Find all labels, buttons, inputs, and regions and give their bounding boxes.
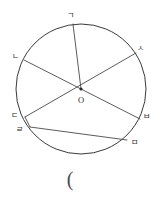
vertex-label-siot: ㅅ <box>137 44 144 53</box>
figure-canvas: O ㄱ ㄴ ㅅ ㄷ ㄹ ㅂ ㅁ ( <box>0 0 159 202</box>
caption-parenthesis: ( <box>67 168 74 191</box>
vertex-label-digeut: ㄷ <box>11 111 18 120</box>
center-point-dot <box>79 87 82 90</box>
vertex-label-bieup: ㅂ <box>143 112 150 121</box>
radius-O-giyeok <box>73 24 81 89</box>
vertex-label-mieum: ㅁ <box>131 138 138 147</box>
vertex-label-giyeok: ㄱ <box>67 11 74 20</box>
diameter-siot-digeut <box>25 53 136 117</box>
chord-rieul-mieum <box>30 127 127 140</box>
center-point-label: O <box>78 95 84 105</box>
vertex-label-rieul: ㄹ <box>16 125 23 134</box>
vertex-label-nieun: ㄴ <box>12 52 19 61</box>
geometry-figure: O ㄱ ㄴ ㅅ ㄷ ㄹ ㅂ ㅁ ( <box>0 0 159 202</box>
